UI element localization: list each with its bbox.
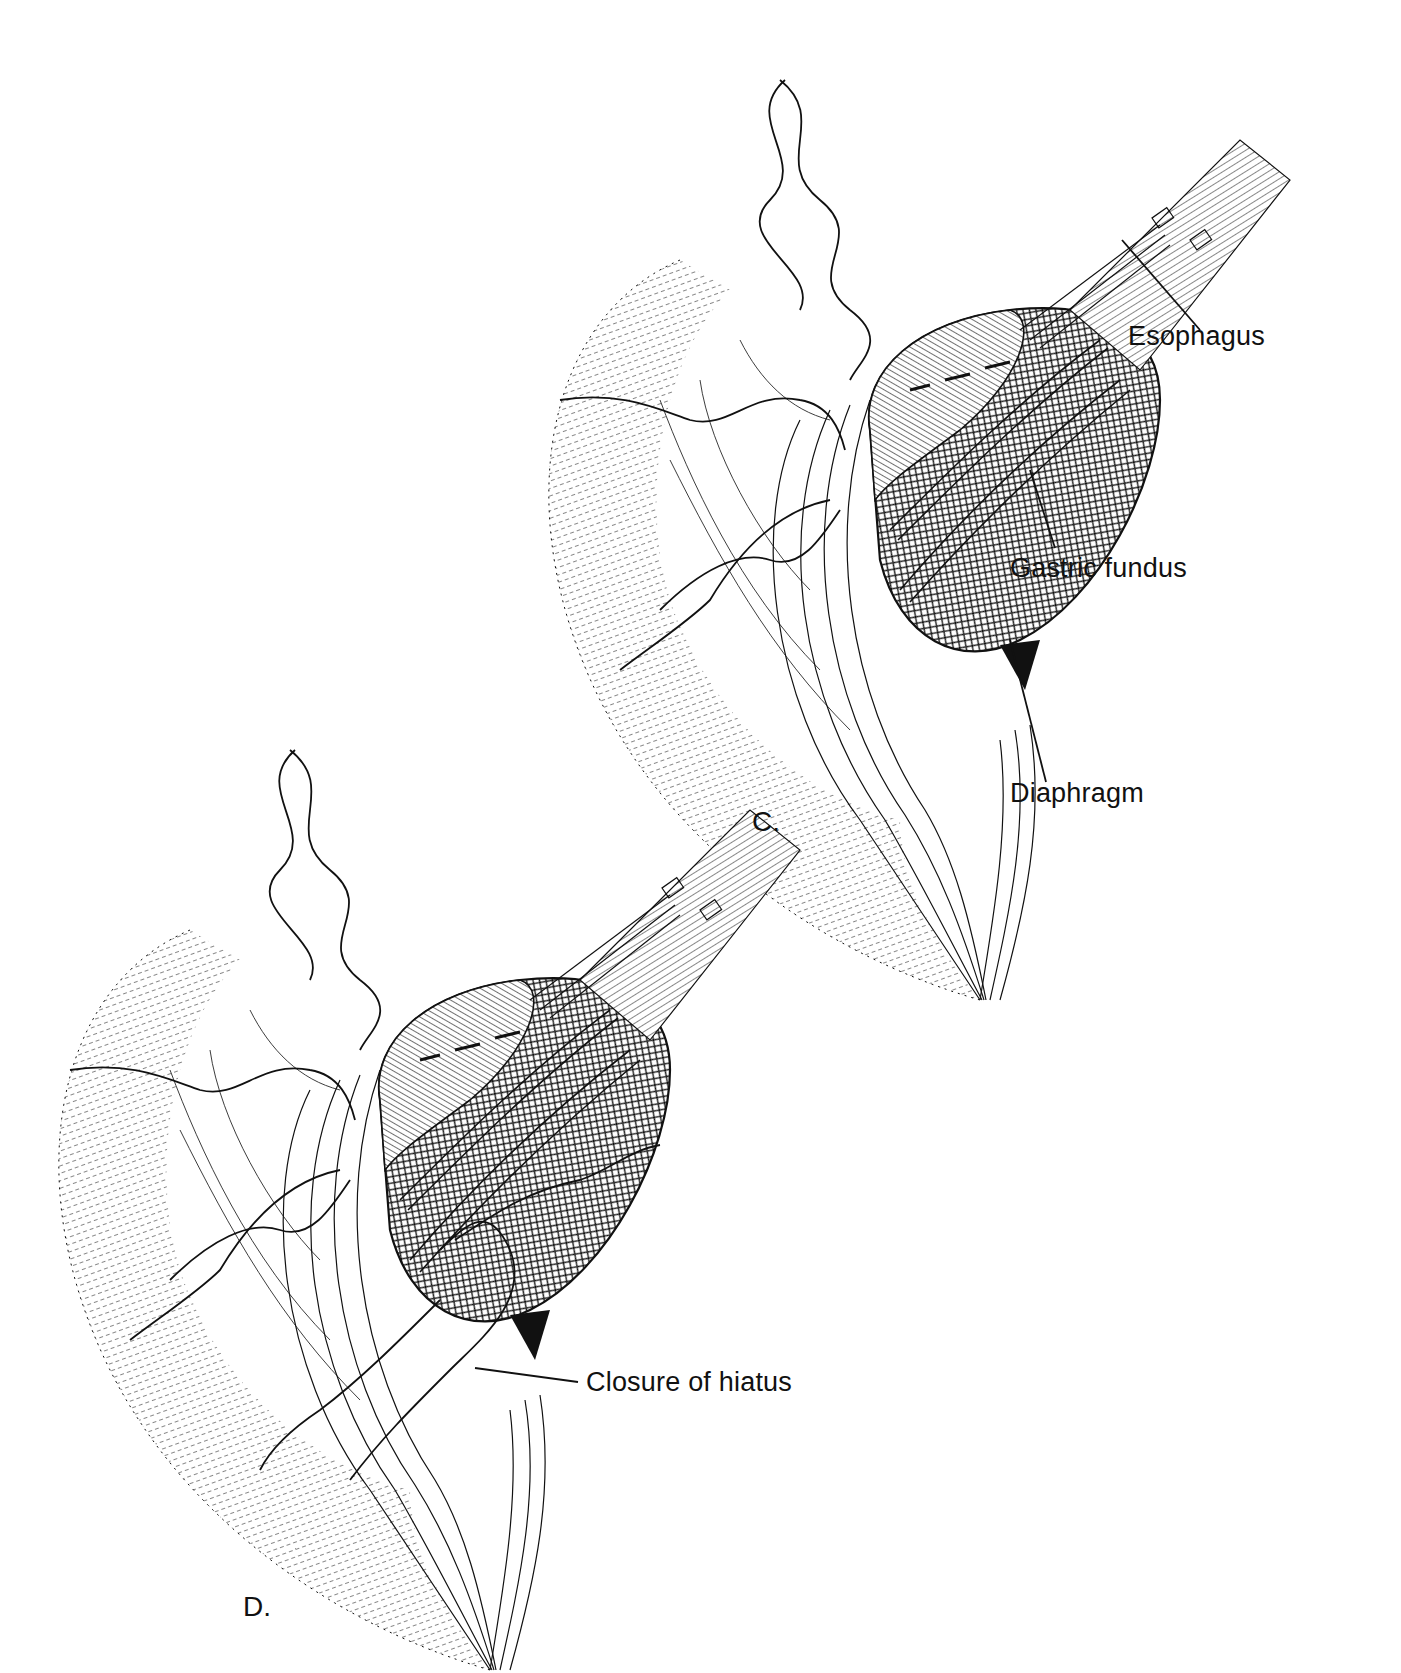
surgical-figure [0,0,1401,1673]
label-gastric-fundus: Gastric fundus [1010,553,1187,584]
label-esophagus: Esophagus [1128,321,1265,352]
label-diaphragm: Diaphragm [1010,778,1144,809]
panel-letter-d: D. [243,1591,271,1623]
leader-closure-of-hiatus [475,1368,578,1382]
label-closure-of-hiatus: Closure of hiatus [586,1367,792,1398]
panel-c-illustration [549,80,1290,1000]
panel-d-illustration [59,750,800,1670]
panel-letter-c: C. [752,806,780,838]
